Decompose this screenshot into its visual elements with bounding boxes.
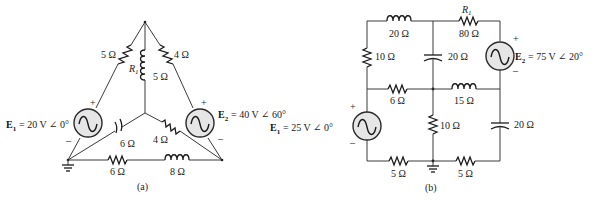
- e1-value: = 25 V ∠ 0°: [283, 122, 333, 133]
- label-20-ohm-top-inductor: 20 Ω: [389, 28, 409, 39]
- ground-icon: [62, 160, 74, 171]
- e2-label: E2: [515, 51, 526, 65]
- e2-label: E2: [218, 109, 229, 123]
- resistor-5-ohm-left: [118, 45, 132, 64]
- resistor-4-ohm-inner: [162, 120, 180, 134]
- ac-source-e2-icon: [186, 109, 214, 137]
- label-20-ohm-right-capacitor: 20 Ω: [514, 119, 534, 130]
- e1-plus: +: [350, 101, 356, 112]
- wire: [131, 22, 145, 45]
- e2-plus: +: [201, 97, 207, 108]
- e2-minus: –: [217, 133, 224, 144]
- circuit-a: + – E1 = 20 V ∠ 0° + – E2 = 40 V ∠ 60° 5…: [6, 21, 286, 193]
- e2-value: = 75 V ∠ 20°: [528, 51, 583, 62]
- e2-plus: +: [513, 33, 519, 44]
- wire: [122, 113, 145, 127]
- node: [221, 159, 224, 162]
- label-5-ohm-bottom-right: 5 Ω: [458, 168, 473, 179]
- e2-value: = 40 V ∠ 60°: [231, 109, 286, 120]
- resistor-4-ohm-right: [159, 45, 173, 64]
- resistor-10-ohm-left: [363, 48, 371, 67]
- resistor-6-ohm-bottom: [108, 156, 127, 164]
- node: [144, 21, 147, 24]
- caption-b: (b): [425, 182, 437, 194]
- caption-a: (a): [137, 181, 148, 193]
- wire: [96, 64, 118, 108]
- resistor-10-ohm-center: [429, 115, 437, 134]
- capacitor-plate: [120, 119, 122, 131]
- capacitor-plate: [115, 122, 117, 133]
- circuit-b: + – E1 = 25 V ∠ 0° + – E2 = 75 V ∠ 20° 2…: [270, 4, 583, 194]
- e1-minus: –: [349, 137, 356, 148]
- label-5-ohm-center: 5 Ω: [153, 71, 168, 82]
- label-8-ohm-bottom: 8 Ω: [170, 166, 185, 177]
- e1-minus: –: [65, 135, 72, 146]
- label-r1: R1: [128, 63, 139, 76]
- wire: [145, 113, 162, 122]
- e1-value: = 20 V ∠ 0°: [19, 119, 69, 130]
- ground-icon: [427, 161, 439, 172]
- circuit-figure: + – E1 = 20 V ∠ 0° + – E2 = 40 V ∠ 60° 5…: [0, 0, 596, 200]
- label-6-ohm-bottom: 6 Ω: [110, 166, 125, 177]
- ac-source-e1-icon: [74, 109, 102, 137]
- label-5-ohm-bottom-left: 5 Ω: [391, 168, 406, 179]
- label-6-ohm-mid: 6 Ω: [390, 95, 405, 106]
- inductor-20-ohm-top: [387, 16, 411, 21]
- wire: [173, 64, 193, 108]
- label-6-ohm-capacitor: 6 Ω: [120, 138, 135, 149]
- label-15-ohm-mid: 15 Ω: [454, 95, 474, 106]
- resistor-r1-80-ohm: [459, 17, 478, 25]
- label-4-ohm-right: 4 Ω: [174, 49, 189, 60]
- label-20-ohm-capacitor: 20 Ω: [448, 51, 468, 62]
- label-10-ohm-left: 10 Ω: [375, 51, 395, 62]
- inductor-8-ohm-bottom: [165, 155, 189, 160]
- label-5-ohm-left: 5 Ω: [101, 49, 116, 60]
- resistor-5-ohm-bottom-left: [389, 157, 408, 165]
- inductor-r1-5-ohm: [141, 50, 146, 80]
- e1-label: E1: [6, 119, 17, 133]
- ac-source-e2-icon: [486, 42, 514, 70]
- label-r1: R1: [461, 4, 472, 17]
- label-4-ohm-inner: 4 Ω: [153, 134, 168, 145]
- label-80-ohm: 80 Ω: [459, 28, 479, 39]
- e1-label: E1: [270, 122, 281, 136]
- wire: [145, 22, 160, 45]
- e2-minus: –: [512, 65, 519, 76]
- e1-plus: +: [90, 97, 96, 108]
- resistor-6-ohm-mid: [388, 85, 407, 93]
- resistor-5-ohm-bottom-right: [456, 157, 475, 165]
- label-10-ohm-center: 10 Ω: [440, 120, 460, 131]
- ac-source-e1-icon: [353, 112, 381, 140]
- inductor-15-ohm-mid: [452, 84, 476, 89]
